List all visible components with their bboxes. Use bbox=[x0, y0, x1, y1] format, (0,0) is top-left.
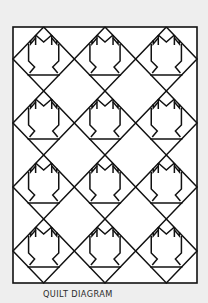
quilt-diagram bbox=[0, 0, 208, 303]
diagram-caption: QUILT DIAGRAM bbox=[43, 289, 113, 299]
